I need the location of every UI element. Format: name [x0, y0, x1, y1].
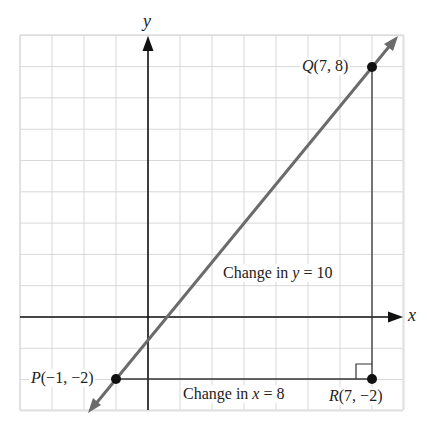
point-r [367, 374, 377, 384]
grid-lines [20, 35, 404, 411]
change-y-suffix: = 10 [299, 264, 332, 281]
x-axis-label: x [408, 306, 416, 324]
point-r-coords: (7, −2) [339, 387, 383, 404]
change-x-suffix: = 8 [259, 385, 284, 402]
change-y-prefix: Change in [223, 264, 292, 281]
change-in-x-label: Change in x = 8 [181, 385, 286, 403]
y-axis-arrow-icon [143, 36, 154, 51]
point-p-coords: (−1, −2) [41, 369, 94, 386]
x-axis-arrow-icon [388, 312, 403, 323]
point-p [111, 374, 121, 384]
point-p-label: P(−1, −2) [29, 369, 95, 387]
coordinate-plane [0, 0, 427, 424]
slope-diagram: y x Q(7, 8) P(−1, −2) R(7, −2) Change in… [0, 0, 427, 424]
change-in-y-label: Change in y = 10 [221, 264, 334, 282]
point-r-name: R [329, 387, 339, 404]
point-r-label: R(7, −2) [327, 387, 384, 405]
point-q-name: Q [302, 57, 314, 74]
y-axis-label: y [143, 12, 151, 30]
point-q [367, 62, 377, 72]
point-q-label: Q(7, 8) [300, 57, 350, 75]
point-p-name: P [31, 369, 41, 386]
change-x-prefix: Change in [183, 385, 252, 402]
point-q-coords: (7, 8) [314, 57, 349, 74]
